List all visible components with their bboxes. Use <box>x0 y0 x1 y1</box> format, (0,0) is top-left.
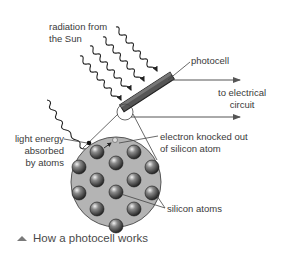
label-light-line2: absorbed <box>14 145 64 157</box>
atom <box>90 145 104 159</box>
label-circuit-line2: circuit <box>218 99 266 111</box>
label-circuit: to electrical circuit <box>218 87 266 111</box>
photocell-panel <box>120 72 175 111</box>
atom <box>90 202 104 216</box>
label-light-energy: light energy absorbed by atoms <box>14 133 64 169</box>
radiation-wave-2 <box>103 37 144 81</box>
electron <box>113 138 118 143</box>
atom <box>109 156 123 170</box>
silicon-enlarged-circle <box>71 137 161 227</box>
label-electron-line2: of silicon atom <box>160 143 248 155</box>
triangle-up-icon <box>17 236 27 241</box>
label-electron-line1: electron knocked out <box>160 131 248 143</box>
label-circuit-line1: to electrical <box>218 87 266 99</box>
label-electron: electron knocked out of silicon atom <box>160 131 248 155</box>
label-silicon-atoms: silicon atoms <box>167 203 222 215</box>
radiation-wave-3 <box>90 46 131 90</box>
label-radiation-line1: radiation from <box>49 21 107 33</box>
label-radiation-line2: the Sun <box>49 33 107 45</box>
photocell-leader <box>168 62 190 80</box>
label-light-line3: by atoms <box>14 157 64 169</box>
atom <box>145 160 159 174</box>
label-light-line1: light energy <box>14 133 64 145</box>
label-photocell: photocell <box>191 55 229 67</box>
atom <box>109 185 123 199</box>
atom <box>127 173 141 187</box>
atom <box>109 219 123 233</box>
label-radiation: radiation from the Sun <box>49 21 107 45</box>
atom <box>127 202 141 216</box>
figure-caption: How a photocell works <box>33 232 148 244</box>
radiation-wave-1 <box>116 27 157 71</box>
atom <box>145 186 159 200</box>
atom <box>72 160 86 174</box>
photocell-diagram <box>0 0 283 254</box>
atom <box>90 173 104 187</box>
absorption-point <box>87 141 92 146</box>
atom <box>72 186 86 200</box>
atom <box>127 145 141 159</box>
